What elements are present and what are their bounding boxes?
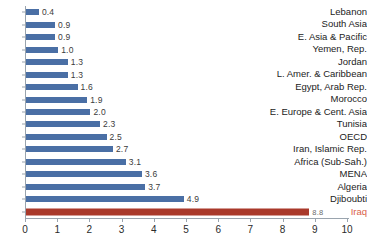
category-label: Africa (Sub-Sah.) xyxy=(247,156,367,168)
bar-value-label: 2.5 xyxy=(110,132,122,142)
bar xyxy=(26,134,107,140)
x-axis-tick-label: 2 xyxy=(87,224,93,235)
x-axis-tick-label: 3 xyxy=(119,224,125,235)
x-axis-tick-label: 6 xyxy=(215,224,221,235)
bar-value-label: 3.6 xyxy=(145,169,157,179)
category-label-column: LebanonSouth AsiaE. Asia & PacificYemen,… xyxy=(247,6,367,218)
category-label: Djiboubti xyxy=(247,193,367,205)
bar xyxy=(26,196,184,202)
x-axis-tick-label: 5 xyxy=(183,224,189,235)
x-axis-tick-label: 1 xyxy=(54,224,60,235)
category-label: L. Amer. & Caribbean xyxy=(247,68,367,80)
category-label: OECD xyxy=(247,131,367,143)
x-axis-tick xyxy=(283,218,284,222)
category-label: E. Europe & Cent. Asia xyxy=(247,106,367,118)
bar xyxy=(26,72,68,78)
bar-value-label: 2.7 xyxy=(116,144,128,154)
x-axis-tick xyxy=(154,218,155,222)
bar xyxy=(26,22,55,28)
bar-value-label: 1.3 xyxy=(71,70,83,80)
bar xyxy=(26,184,145,190)
x-axis-tick xyxy=(347,218,348,222)
x-axis-tick-label: 7 xyxy=(248,224,254,235)
category-label: Algeria xyxy=(247,181,367,193)
x-axis-tick xyxy=(122,218,123,222)
bar xyxy=(26,47,58,53)
bar-value-label: 2.3 xyxy=(103,119,115,129)
bar xyxy=(26,171,142,177)
bar xyxy=(26,146,113,152)
bar-value-label: 1.6 xyxy=(81,82,93,92)
bar-value-label: 0.9 xyxy=(58,20,70,30)
category-label: Lebanon xyxy=(247,6,367,18)
bar-value-label: 1.0 xyxy=(61,45,73,55)
x-axis-ticks: 012345678910 xyxy=(25,218,349,248)
x-axis-tick-label: 10 xyxy=(341,224,352,235)
x-axis-tick xyxy=(57,218,58,222)
category-label: South Asia xyxy=(247,18,367,30)
bar xyxy=(26,97,87,103)
category-label: Egypt, Arab Rep. xyxy=(247,81,367,93)
bar-value-label: 1.9 xyxy=(90,95,102,105)
category-label: Morocco xyxy=(247,93,367,105)
bar-value-label: 2.0 xyxy=(93,107,105,117)
x-axis-tick-label: 0 xyxy=(22,224,28,235)
bar-value-label: 3.7 xyxy=(148,182,160,192)
bar xyxy=(26,109,90,115)
category-label: MENA xyxy=(247,168,367,180)
x-axis-tick-label: 9 xyxy=(312,224,318,235)
x-axis-tick xyxy=(250,218,251,222)
x-axis-tick xyxy=(186,218,187,222)
bar xyxy=(26,9,39,15)
x-axis-tick xyxy=(89,218,90,222)
bar-value-label: 3.1 xyxy=(129,157,141,167)
category-label: Yemen, Rep. xyxy=(247,43,367,55)
category-label: Tunisia xyxy=(247,118,367,130)
bar-value-label: 0.9 xyxy=(58,32,70,42)
bar xyxy=(26,59,68,65)
bar-value-label: 1.3 xyxy=(71,57,83,67)
bar xyxy=(26,159,126,165)
category-label: E. Asia & Pacific xyxy=(247,31,367,43)
x-axis-tick-label: 4 xyxy=(151,224,157,235)
bar xyxy=(26,121,100,127)
category-label: Iraq xyxy=(247,206,367,218)
x-axis-tick xyxy=(25,218,26,222)
x-axis-tick xyxy=(315,218,316,222)
bar-value-label: 0.4 xyxy=(42,7,54,17)
bar-chart: 0.40.90.91.01.31.31.61.92.02.32.52.73.13… xyxy=(0,0,369,248)
category-label: Iran, Islamic Rep. xyxy=(247,143,367,155)
category-label: Jordan xyxy=(247,56,367,68)
bar xyxy=(26,34,55,40)
x-axis-tick-label: 8 xyxy=(280,224,286,235)
x-axis-tick xyxy=(218,218,219,222)
bar-value-label: 4.9 xyxy=(187,194,199,204)
bar xyxy=(26,84,78,90)
